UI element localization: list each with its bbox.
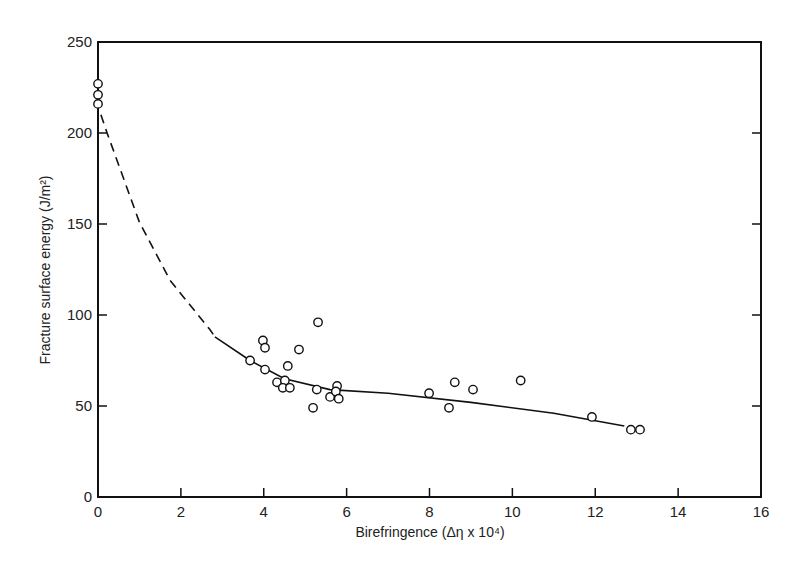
data-point-marker [309, 404, 317, 412]
plot-frame [98, 42, 761, 497]
x-tick-label: 6 [342, 503, 350, 520]
data-points [94, 80, 644, 434]
y-tick-label: 100 [67, 306, 92, 323]
x-tick-label: 0 [94, 503, 102, 520]
x-tick-label: 12 [587, 503, 604, 520]
data-point-marker [261, 365, 269, 373]
data-point-marker [261, 344, 269, 352]
x-tick-label: 14 [670, 503, 687, 520]
x-tick-label: 16 [753, 503, 770, 520]
y-tick-label: 0 [84, 488, 92, 505]
fit-curves [101, 115, 624, 426]
data-point-marker [469, 385, 477, 393]
x-tick-label: 4 [260, 503, 268, 520]
y-tick-label: 250 [67, 33, 92, 50]
chart: 0246810121416050100150200250 Birefringen… [0, 0, 800, 570]
axis-ticks: 0246810121416050100150200250 [67, 33, 769, 520]
data-point-marker [314, 318, 322, 326]
y-tick-label: 200 [67, 124, 92, 141]
y-tick-label: 150 [67, 215, 92, 232]
data-point-marker [445, 404, 453, 412]
data-point-marker [636, 425, 644, 433]
data-point-marker [588, 413, 596, 421]
x-tick-label: 8 [425, 503, 433, 520]
data-point-marker [284, 362, 292, 370]
data-point-marker [313, 385, 321, 393]
data-point-marker [286, 384, 294, 392]
fit-curve-dashed [101, 115, 215, 337]
y-tick-label: 50 [75, 397, 92, 414]
data-point-marker [335, 395, 343, 403]
data-point-marker [425, 389, 433, 397]
x-tick-label: 10 [504, 503, 521, 520]
data-point-marker [246, 356, 254, 364]
x-axis-title: Birefringence (Δη x 10⁴) [355, 524, 504, 540]
data-point-marker [451, 378, 459, 386]
plot-border [98, 42, 761, 497]
data-point-marker [627, 425, 635, 433]
data-point-marker [94, 100, 102, 108]
y-axis-title: Fracture surface energy (J/m²) [37, 175, 53, 364]
data-point-marker [516, 376, 524, 384]
data-point-marker [94, 91, 102, 99]
data-point-marker [94, 80, 102, 88]
data-point-marker [295, 345, 303, 353]
x-tick-label: 2 [177, 503, 185, 520]
